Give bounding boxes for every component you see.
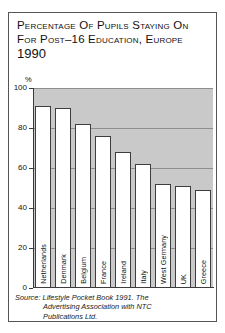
bar-category-label: Ireland — [116, 261, 130, 284]
bar: Belgium — [75, 124, 91, 288]
bar-category-label: Netherlands — [36, 244, 50, 284]
bar-group: Belgium — [75, 88, 91, 288]
y-axis-tick-label: 0 — [9, 283, 27, 292]
y-axis-tick-label: 20 — [9, 243, 27, 252]
bar-group: Denmark — [55, 88, 71, 288]
bar: Ireland — [115, 152, 131, 288]
bar-group: Italy — [135, 88, 151, 288]
bar-group: West Germany — [155, 88, 171, 288]
bar: Greece — [195, 190, 211, 288]
bar-category-label: Greece — [196, 260, 210, 284]
bar-group: France — [95, 88, 111, 288]
chart-figure: Percentage Of Pupils Staying On For Post… — [8, 12, 217, 322]
bar: UK — [175, 186, 191, 288]
bar: France — [95, 136, 111, 288]
bar-category-label: France — [96, 261, 110, 284]
chart-plot-region: % 020406080100 NetherlandsDenmarkBelgium… — [9, 13, 218, 323]
y-axis-tick — [29, 88, 33, 89]
y-axis-tick-label: 60 — [9, 163, 27, 172]
source-line-1: Lifestyle Pocket Book 1991. The — [43, 293, 149, 302]
bar-category-label: Belgium — [76, 257, 90, 284]
bar-category-label: UK — [176, 274, 190, 284]
bar: Netherlands — [35, 106, 51, 288]
bar-category-label: Italy — [136, 270, 150, 284]
source-note: Source: Lifestyle Pocket Book 1991. The … — [15, 293, 213, 321]
bar-group: Ireland — [115, 88, 131, 288]
bar-group: Greece — [195, 88, 211, 288]
bar-group: Netherlands — [35, 88, 51, 288]
y-axis-tick — [29, 248, 33, 249]
bar: West Germany — [155, 184, 171, 288]
source-line-3: Publications Ltd. — [15, 312, 213, 321]
bar-category-label: West Germany — [156, 235, 170, 284]
y-axis-tick-label: 40 — [9, 203, 27, 212]
bar-category-label: Denmark — [56, 254, 70, 284]
y-axis-tick-label: 100 — [9, 83, 27, 92]
source-line-2: Advertising Association with NTC — [15, 302, 213, 311]
y-axis-tick — [29, 128, 33, 129]
y-axis-tick — [29, 168, 33, 169]
bar: Italy — [135, 164, 151, 288]
bar: Denmark — [55, 108, 71, 288]
y-axis-tick-label: 80 — [9, 123, 27, 132]
y-axis-tick — [29, 208, 33, 209]
y-axis-tick — [29, 288, 33, 289]
source-label: Source: — [15, 293, 40, 302]
bar-group: UK — [175, 88, 191, 288]
